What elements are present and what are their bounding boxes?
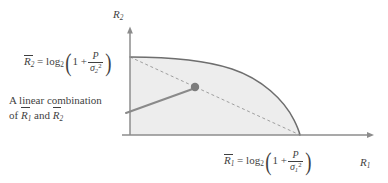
r2-open-paren: (: [65, 48, 71, 78]
annotation-r1-bar: R1: [21, 108, 31, 123]
r1-open-paren: (: [265, 147, 271, 177]
r2-log: log2: [46, 55, 64, 67]
r1-one-plus: 1 +: [272, 154, 286, 166]
y-axis-label: R2: [113, 8, 123, 21]
r1-bar-formula: R1 = log2(1 +Pσ12): [224, 147, 313, 177]
y-axis-arrowhead: [127, 27, 133, 34]
r2-one-plus: 1 +: [72, 55, 86, 67]
r2-denominator: σ22: [88, 62, 104, 74]
linear-combination-annotation: A linear combination of R1 and R2: [9, 93, 102, 122]
annotation-line-2: of R1 and R2: [9, 108, 102, 123]
x-axis-arrowhead: [367, 132, 374, 138]
r2-close-paren: ): [106, 48, 112, 78]
r1-fraction: Pσ12: [288, 150, 304, 172]
capacity-region-figure: R2 = log2(1 +Pσ22) R1 = log2(1 +Pσ12) R2…: [0, 0, 388, 183]
r1-log: log2: [246, 154, 264, 166]
r2-fraction: Pσ22: [88, 51, 104, 73]
r1-denominator: σ12: [288, 161, 304, 173]
annotation-of: of: [9, 109, 18, 121]
r1-close-paren: ): [306, 147, 312, 177]
r2-bar-symbol: R2: [24, 55, 34, 68]
x-axis-label: R1: [360, 156, 370, 169]
plot-canvas: [0, 0, 388, 183]
r2-numerator: P: [88, 51, 104, 62]
r2-bar-formula: R2 = log2(1 +Pσ22): [24, 48, 113, 78]
annotation-and: and: [34, 109, 50, 121]
annotation-line-1: A linear combination: [9, 93, 102, 108]
operating-point-dot: [191, 83, 199, 91]
r1-numerator: P: [288, 150, 304, 161]
r1-bar-symbol: R1: [224, 154, 234, 167]
annotation-r2-bar: R2: [53, 108, 63, 123]
r2-equals-sign: =: [37, 55, 43, 67]
r1-equals-sign: =: [237, 154, 243, 166]
